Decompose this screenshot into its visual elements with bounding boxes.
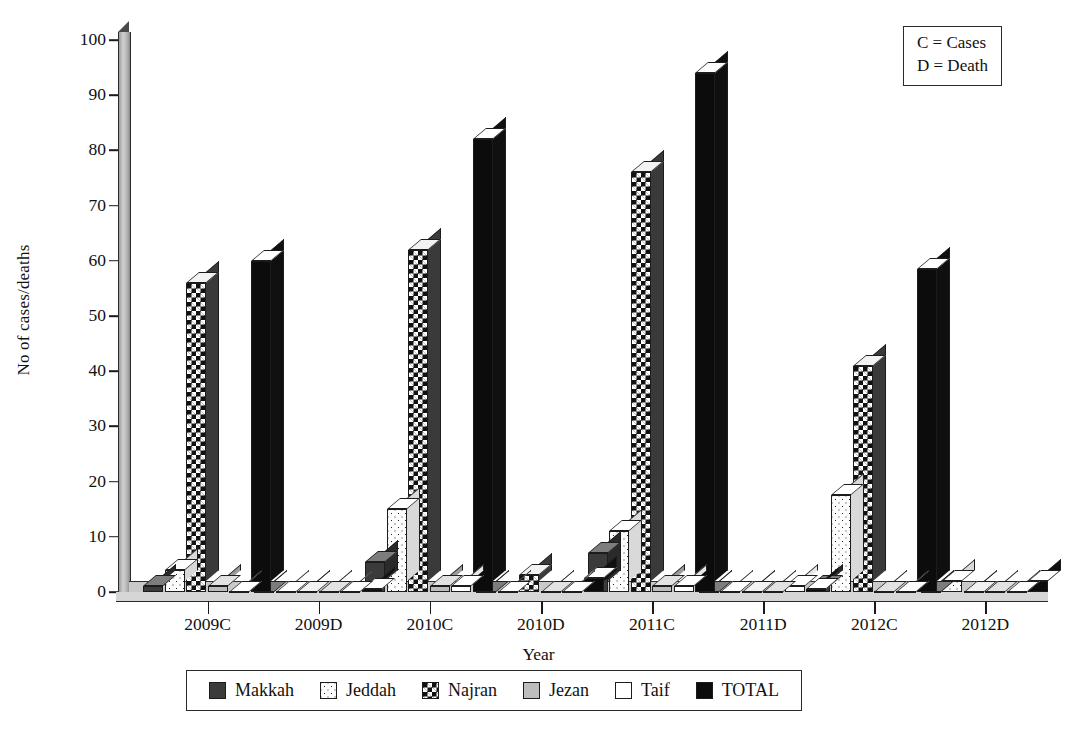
legend-item-najran[interactable]: Najran bbox=[422, 680, 497, 701]
legend-swatch-taif-icon bbox=[615, 682, 632, 699]
bar-front-face bbox=[806, 589, 826, 592]
bar-jezan-2012C bbox=[874, 592, 894, 593]
bar-total-2009D bbox=[362, 589, 382, 592]
bar-makkah-2010D bbox=[476, 592, 496, 593]
bar-taif-2009D bbox=[340, 592, 360, 593]
legend-item-makkah[interactable]: Makkah bbox=[209, 680, 294, 701]
legend-label: TOTAL bbox=[722, 680, 779, 701]
bar-front-face bbox=[473, 139, 493, 592]
y-tick-mark bbox=[109, 150, 118, 152]
bar-jezan-2009C bbox=[208, 586, 228, 592]
bar-najran-2009D bbox=[297, 592, 317, 593]
bar-front-face bbox=[652, 586, 672, 592]
plot-floor-front bbox=[116, 592, 1048, 602]
legend-swatch-total-icon bbox=[696, 682, 713, 699]
legend-item-jeddah[interactable]: Jeddah bbox=[320, 680, 396, 701]
legend-item-taif[interactable]: Taif bbox=[615, 680, 670, 701]
x-tick-label: 2010D bbox=[517, 614, 565, 635]
y-tick-label: 20 bbox=[50, 473, 106, 491]
legend-label: Taif bbox=[641, 680, 670, 701]
bar-taif-2010D bbox=[562, 592, 582, 593]
bar-front-face bbox=[319, 591, 339, 593]
x-tick-label: 2010C bbox=[406, 614, 453, 635]
bar-najran-2012D bbox=[964, 592, 984, 593]
legend-item-total[interactable]: TOTAL bbox=[696, 680, 779, 701]
y-axis-wall bbox=[118, 32, 131, 592]
bar-front-face bbox=[451, 586, 471, 592]
y-tick-label: 0 bbox=[50, 583, 106, 601]
bar-front-face bbox=[186, 283, 206, 592]
bar-jeddah-2011D bbox=[720, 592, 740, 593]
legend-label: Makkah bbox=[235, 680, 294, 701]
y-tick-label: 70 bbox=[50, 197, 106, 215]
x-tick-label: 2012C bbox=[851, 614, 898, 635]
bar-jezan-2010D bbox=[541, 592, 561, 593]
bar-front-face bbox=[896, 591, 916, 593]
bar-front-face bbox=[1007, 591, 1027, 593]
bar-side-face bbox=[873, 344, 886, 581]
bar-front-face bbox=[763, 591, 783, 593]
y-tick-mark bbox=[109, 205, 118, 207]
bar-front-face bbox=[720, 591, 740, 593]
bar-side-face bbox=[428, 228, 441, 581]
bar-jezan-2009D bbox=[319, 592, 339, 593]
y-tick-mark bbox=[109, 94, 118, 96]
bar-najran-2011D bbox=[742, 592, 762, 593]
bar-makkah-2011D bbox=[699, 592, 719, 593]
bar-jeddah-2010D bbox=[498, 592, 518, 593]
y-tick-mark bbox=[109, 536, 118, 538]
legend-swatch-jezan-icon bbox=[523, 682, 540, 699]
bar-makkah-2009C bbox=[143, 586, 163, 592]
bar-front-face bbox=[276, 591, 296, 593]
bar-jezan-2011C bbox=[652, 586, 672, 592]
x-tick-label: 2011D bbox=[740, 614, 787, 635]
bar-jezan-2011D bbox=[763, 592, 783, 593]
bar-najran-2009C bbox=[186, 283, 206, 592]
bar-total-2012C bbox=[917, 269, 937, 592]
y-tick-mark bbox=[109, 426, 118, 428]
bar-front-face bbox=[340, 591, 360, 593]
y-axis-cap-icon bbox=[118, 21, 129, 32]
bar-front-face bbox=[498, 591, 518, 593]
bar-side-face bbox=[206, 261, 219, 581]
legend-swatch-jeddah-icon bbox=[320, 682, 337, 699]
chart-legend: MakkahJeddahNajranJezanTaifTOTAL bbox=[186, 670, 802, 711]
x-axis-label: Year bbox=[0, 644, 1077, 665]
x-tick-label: 2009C bbox=[184, 614, 231, 635]
bar-taif-2011C bbox=[674, 586, 694, 592]
bar-taif-2012C bbox=[896, 592, 916, 593]
bar-total-2009C bbox=[251, 261, 271, 592]
bar-front-face bbox=[985, 591, 1005, 593]
annotation-line-2: D = Death bbox=[917, 55, 988, 78]
y-tick-label: 40 bbox=[50, 362, 106, 380]
legend-swatch-makkah-icon bbox=[209, 682, 226, 699]
bar-jezan-2010C bbox=[430, 586, 450, 592]
bar-front-face bbox=[674, 586, 694, 592]
x-tick-mark bbox=[763, 601, 765, 614]
bar-side-face bbox=[715, 51, 728, 581]
bar-front-face bbox=[362, 589, 382, 592]
y-tick-label: 100 bbox=[50, 31, 106, 49]
annotation-line-1: C = Cases bbox=[917, 32, 988, 55]
y-tick-mark bbox=[109, 315, 118, 317]
bar-front-face bbox=[695, 73, 715, 592]
legend-item-jezan[interactable]: Jezan bbox=[523, 680, 589, 701]
y-tick-mark bbox=[109, 260, 118, 262]
y-tick-mark bbox=[109, 481, 118, 483]
bar-jeddah-2009D bbox=[276, 592, 296, 593]
bar-front-face bbox=[251, 261, 271, 592]
bar-total-2010C bbox=[473, 139, 493, 592]
y-tick-label: 60 bbox=[50, 252, 106, 270]
x-tick-mark bbox=[874, 601, 876, 614]
bar-chart: No of cases/deaths 100908070605040302010… bbox=[0, 0, 1077, 742]
x-tick-mark bbox=[541, 601, 543, 614]
bar-taif-2012D bbox=[1007, 592, 1027, 593]
annotation-box: C = Cases D = Death bbox=[903, 26, 1002, 86]
bar-side-face bbox=[651, 151, 664, 581]
bar-front-face bbox=[562, 591, 582, 593]
bar-front-face bbox=[297, 591, 317, 593]
y-tick-label: 10 bbox=[50, 528, 106, 546]
x-tick-mark bbox=[652, 601, 654, 614]
legend-label: Najran bbox=[448, 680, 497, 701]
legend-label: Jezan bbox=[549, 680, 589, 701]
